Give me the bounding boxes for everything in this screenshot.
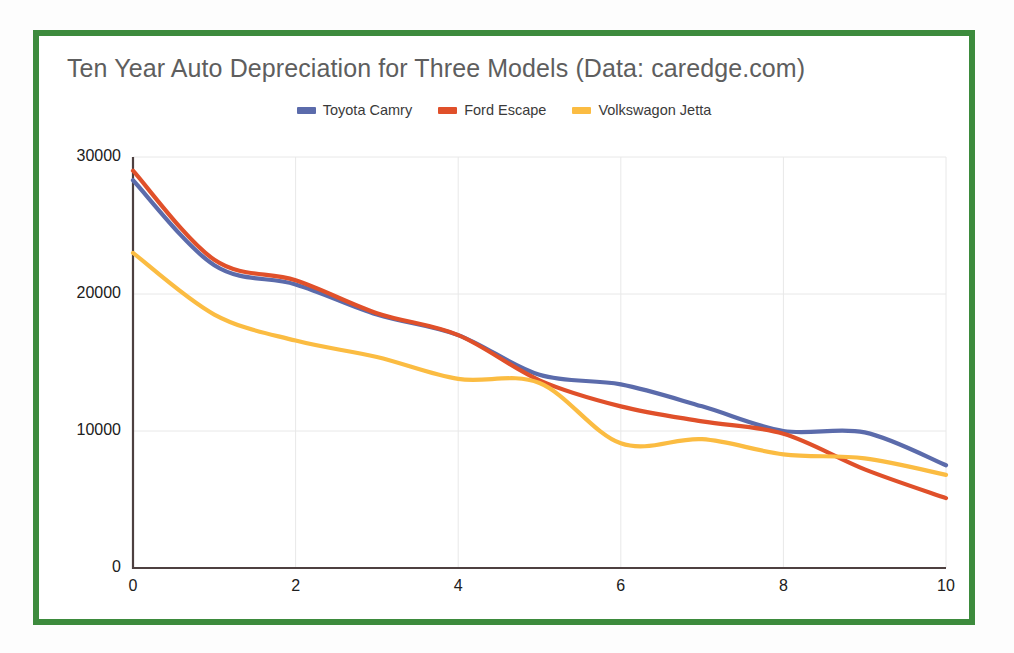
y-tick-label: 30000: [77, 147, 122, 164]
chart-svg: 0100002000030000 0246810: [39, 36, 969, 619]
chart-frame: Ten Year Auto Depreciation for Three Mod…: [33, 30, 975, 625]
axis-lines: [133, 157, 946, 568]
y-axis-ticks: 0100002000030000: [77, 147, 122, 575]
series-line-ford-escape: [133, 171, 946, 498]
x-axis-ticks: 0246810: [129, 577, 955, 594]
x-tick-label: 4: [454, 577, 463, 594]
y-tick-label: 10000: [77, 421, 122, 438]
x-tick-label: 8: [779, 577, 788, 594]
y-tick-label: 20000: [77, 284, 122, 301]
gridlines: [133, 157, 946, 568]
x-tick-label: 0: [129, 577, 138, 594]
series-line-toyota-camry: [133, 180, 946, 465]
axis-lines-path: [133, 157, 946, 568]
series-line-volkswagon-jetta: [133, 253, 946, 475]
x-tick-label: 10: [937, 577, 955, 594]
plot-area: 0100002000030000 0246810: [39, 36, 969, 619]
screenshot-canvas: Ten Year Auto Depreciation for Three Mod…: [0, 0, 1014, 653]
chart-container: Ten Year Auto Depreciation for Three Mod…: [39, 36, 969, 619]
y-tick-label: 0: [112, 558, 121, 575]
x-tick-label: 6: [616, 577, 625, 594]
series-lines: [133, 171, 946, 498]
x-tick-label: 2: [291, 577, 300, 594]
